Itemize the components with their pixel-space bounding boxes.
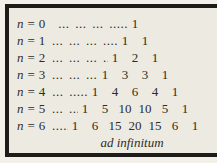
row-label: n=0 [17, 15, 45, 32]
row-variable: n [17, 118, 24, 133]
triangle-value: 3 [115, 66, 135, 83]
leader-dots: ... ... ... ..... [52, 15, 128, 32]
leader-dots: ... ... ... .... [52, 32, 118, 49]
equals-sign: = [28, 84, 35, 99]
triangle-value: 1 [65, 117, 85, 134]
triangle-value: 1 [145, 49, 165, 66]
row-index: 2 [39, 50, 46, 65]
row-index: 0 [39, 16, 46, 31]
row-label: n=4 [17, 83, 45, 100]
triangle-value: 6 [85, 117, 105, 134]
row-index: 5 [39, 101, 46, 116]
triangle-value: 1 [135, 32, 155, 49]
row-label: n=2 [17, 49, 45, 66]
row-label: n=6 [17, 117, 45, 134]
row-variable: n [17, 16, 24, 31]
triangle-value: 10 [135, 100, 155, 117]
pascal-row: n=6 ..... 1615201561 [17, 117, 217, 134]
triangle-value: 10 [115, 100, 135, 117]
figure-frame: n=0 ... ... ... ..... 1 n=1 ... ... ... … [5, 4, 217, 157]
equals-sign: = [28, 16, 35, 31]
row-values: 1 [125, 15, 145, 32]
triangle-value: 1 [95, 66, 115, 83]
row-variable: n [17, 33, 24, 48]
triangle-value: 4 [105, 83, 125, 100]
triangle-value: 6 [125, 83, 145, 100]
triangle-value: 1 [85, 83, 105, 100]
triangle-value: 15 [145, 117, 165, 134]
triangle-value: 6 [165, 117, 185, 134]
equals-sign: = [28, 33, 35, 48]
triangle-value: 1 [105, 49, 125, 66]
triangle-rows: n=0 ... ... ... ..... 1 n=1 ... ... ... … [17, 15, 217, 134]
row-index: 1 [39, 33, 46, 48]
row-values: 11 [115, 32, 155, 49]
row-label: n=1 [17, 32, 45, 49]
triangle-value: 2 [125, 49, 145, 66]
pascal-row: n=3 ... ... .... 1331 [17, 66, 217, 83]
triangle-value: 1 [165, 83, 185, 100]
leader-dots: ... ... ... ... [52, 49, 108, 66]
pascal-row: n=0 ... ... ... ..... 1 [17, 15, 217, 32]
row-values: 1615201561 [65, 117, 205, 134]
equals-sign: = [28, 118, 35, 133]
equals-sign: = [28, 50, 35, 65]
row-values: 15101051 [75, 100, 195, 117]
row-label: n=3 [17, 66, 45, 83]
row-index: 4 [39, 84, 46, 99]
figure-caption: ad infinitum [100, 134, 163, 151]
pascal-row: n=2 ... ... ... ... 121 [17, 49, 217, 66]
pascal-row: n=4 ... ..... 14641 [17, 83, 217, 100]
triangle-value: 1 [125, 15, 145, 32]
pascal-row: n=1 ... ... ... .... 11 [17, 32, 217, 49]
row-index: 3 [39, 67, 46, 82]
triangle-value: 5 [95, 100, 115, 117]
row-variable: n [17, 84, 24, 99]
row-variable: n [17, 67, 24, 82]
triangle-value: 5 [155, 100, 175, 117]
pascal-triangle-figure: n=0 ... ... ... ..... 1 n=1 ... ... ... … [17, 15, 217, 134]
row-variable: n [17, 101, 24, 116]
row-variable: n [17, 50, 24, 65]
row-values: 1331 [95, 66, 175, 83]
triangle-value: 15 [105, 117, 125, 134]
equals-sign: = [28, 67, 35, 82]
leader-dots: ... ... .... [52, 66, 98, 83]
triangle-value: 1 [115, 32, 135, 49]
row-index: 6 [39, 118, 46, 133]
scanned-page: { "figure": { "caption": "ad infinitum",… [0, 0, 217, 163]
equals-sign: = [28, 101, 35, 116]
triangle-value: 1 [185, 117, 205, 134]
row-values: 121 [105, 49, 165, 66]
leader-dots: ... ..... [52, 83, 88, 100]
row-label: n=5 [17, 100, 45, 117]
triangle-value: 1 [175, 100, 195, 117]
triangle-value: 3 [135, 66, 155, 83]
pascal-row: n=5 ... ... 15101051 [17, 100, 217, 117]
triangle-value: 1 [75, 100, 95, 117]
triangle-value: 4 [145, 83, 165, 100]
row-values: 14641 [85, 83, 185, 100]
triangle-value: 20 [125, 117, 145, 134]
triangle-value: 1 [155, 66, 175, 83]
